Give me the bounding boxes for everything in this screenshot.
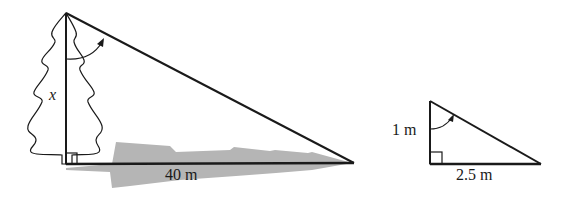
shadow-base-line bbox=[66, 163, 354, 164]
base-label-40m: 40 m bbox=[165, 166, 197, 184]
right-angle-marker-small bbox=[430, 152, 442, 164]
stick-hypotenuse bbox=[430, 101, 541, 164]
height-label-1m: 1 m bbox=[392, 121, 416, 139]
angle-arrow-large bbox=[97, 38, 104, 47]
base-label-2-5m: 2.5 m bbox=[456, 166, 492, 184]
height-label-x: x bbox=[49, 86, 56, 104]
angle-arc-large bbox=[66, 42, 102, 59]
similar-triangles-diagram: x 40 m 1 m 2.5 m bbox=[0, 0, 563, 204]
angle-arc-small bbox=[430, 117, 452, 129]
sun-ray-hypotenuse bbox=[66, 13, 354, 163]
